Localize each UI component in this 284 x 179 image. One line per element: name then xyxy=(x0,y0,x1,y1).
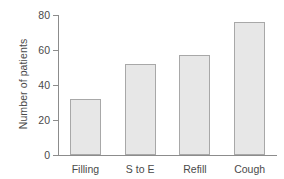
y-tick-mark xyxy=(53,15,58,16)
y-tick-label: 80 xyxy=(38,9,50,21)
bar-refill xyxy=(179,55,210,155)
plot-area: 020406080 FillingS to ERefillCough xyxy=(58,15,277,155)
y-tick-mark xyxy=(53,85,58,86)
x-tick-label: Refill xyxy=(183,163,206,175)
bar-chart: Number of patients 020406080 FillingS to… xyxy=(0,0,284,179)
x-axis-line xyxy=(58,155,277,156)
y-tick-mark xyxy=(53,155,58,156)
y-tick-mark xyxy=(53,50,58,51)
y-tick-mark xyxy=(53,120,58,121)
y-axis-title: Number of patients xyxy=(17,19,29,149)
y-tick-label: 0 xyxy=(44,149,50,161)
bar-cough xyxy=(234,22,265,155)
x-tick-label: Cough xyxy=(234,163,265,175)
x-tick-label: Filling xyxy=(72,163,99,175)
y-tick-label: 20 xyxy=(38,114,50,126)
bar-s-to-e xyxy=(125,64,156,155)
y-axis-line xyxy=(58,15,59,156)
y-tick-label: 40 xyxy=(38,79,50,91)
bar-filling xyxy=(70,99,101,155)
x-tick-label: S to E xyxy=(126,163,155,175)
y-tick-label: 60 xyxy=(38,44,50,56)
